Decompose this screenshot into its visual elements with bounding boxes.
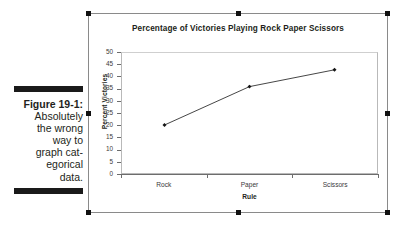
- handle-top-right[interactable]: [385, 11, 390, 16]
- y-tick-5: [117, 162, 121, 163]
- handle-bottom-right[interactable]: [385, 210, 390, 215]
- chart-object[interactable]: Percentage of Victories Playing Rock Pap…: [88, 13, 388, 213]
- y-tick-15: [117, 137, 121, 138]
- y-tick-label-45: 45: [97, 61, 113, 67]
- figure-caption-block: Figure 19-1: Absolutely the wrong way to…: [14, 86, 83, 194]
- x-axis-line: [121, 174, 379, 175]
- x-tick-2: [292, 174, 293, 178]
- x-tick-label-paper: Paper: [223, 181, 277, 188]
- series-plot: [122, 53, 377, 173]
- y-tick-label-50: 50: [97, 49, 113, 55]
- plot-area: [121, 52, 378, 174]
- y-tick-label-40: 40: [97, 73, 113, 79]
- y-tick-30: [117, 101, 121, 102]
- x-tick-1: [207, 174, 208, 178]
- data-point-rock: [163, 123, 167, 127]
- y-tick-label-0: 0: [97, 171, 113, 177]
- figure-number-label: Figure 19-1:: [14, 98, 83, 110]
- x-tick-3: [378, 174, 379, 178]
- handle-middle-left[interactable]: [86, 111, 91, 116]
- handle-middle-right[interactable]: [385, 111, 390, 116]
- y-tick-label-35: 35: [97, 85, 113, 91]
- x-tick-0: [121, 174, 122, 178]
- handle-bottom-middle[interactable]: [236, 210, 241, 215]
- y-tick-40: [117, 76, 121, 77]
- y-tick-45: [117, 64, 121, 65]
- y-tick-label-25: 25: [97, 110, 113, 116]
- data-point-scissors: [333, 68, 337, 72]
- y-tick-50: [117, 52, 121, 53]
- y-tick-10: [117, 150, 121, 151]
- figure-caption-text: Figure 19-1: Absolutely the wrong way to…: [14, 98, 83, 183]
- x-tick-label-scissors: Scissors: [308, 181, 362, 188]
- y-tick-35: [117, 89, 121, 90]
- y-tick-20: [117, 125, 121, 126]
- y-tick-label-30: 30: [97, 98, 113, 104]
- caption-rule-bottom: [14, 188, 83, 194]
- handle-top-middle[interactable]: [236, 11, 241, 16]
- y-tick-label-20: 20: [97, 122, 113, 128]
- data-point-paper: [248, 85, 252, 89]
- handle-top-left[interactable]: [86, 11, 91, 16]
- chart-title: Percentage of Victories Playing Rock Pap…: [88, 24, 388, 33]
- y-tick-label-15: 15: [97, 134, 113, 140]
- x-tick-label-rock: Rock: [137, 181, 191, 188]
- caption-rule-top: [14, 86, 83, 92]
- handle-bottom-left[interactable]: [86, 210, 91, 215]
- y-tick-label-10: 10: [97, 146, 113, 152]
- figure-caption-body: Absolutely the wrong way to graph cat- e…: [14, 110, 83, 183]
- y-tick-25: [117, 113, 121, 114]
- y-tick-label-5: 5: [97, 159, 113, 165]
- series-markers: [163, 68, 337, 127]
- series-line-percent-victories: [164, 70, 334, 125]
- x-axis-title: Rule: [121, 193, 378, 200]
